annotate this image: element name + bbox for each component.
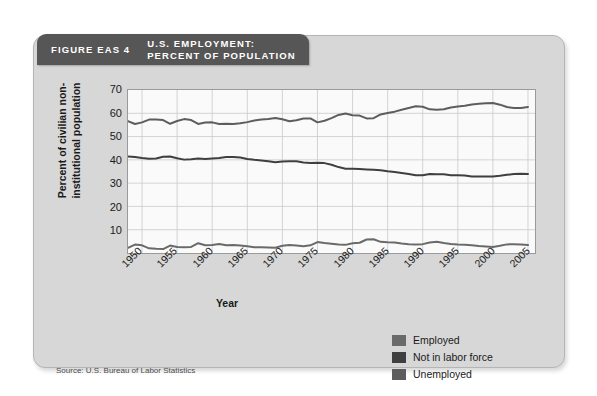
legend-item: Not in labor force (392, 349, 562, 365)
legend-label: Unemployed (413, 368, 472, 380)
legend-item: Employed (392, 332, 562, 348)
y-tick-label: 20 (98, 201, 122, 213)
x-axis-ticks: 1950195519601965197019751980198519901995… (127, 255, 536, 297)
y-tick-label: 60 (98, 107, 122, 119)
figure-title-line1: U.S. EMPLOYMENT: (147, 38, 255, 49)
x-axis-title: Year (127, 297, 327, 309)
series-lines (128, 103, 528, 249)
plot-svg (128, 90, 535, 253)
y-tick-label: 30 (98, 177, 122, 189)
legend-swatch (392, 352, 406, 363)
legend-label: Not in labor force (413, 351, 493, 363)
source-note: Source: U.S. Bureau of Labor Statistics (56, 366, 195, 375)
figure-card: FIGURE EAS 4 U.S. EMPLOYMENT: PERCENT OF… (33, 35, 565, 368)
y-axis-title: Percent of civilian non-institutional po… (56, 54, 83, 228)
y-axis-ticks: 70605040302010 (94, 89, 122, 254)
grid-lines (128, 90, 535, 253)
y-tick-label: 10 (98, 224, 122, 236)
plot-frame (127, 89, 536, 254)
chart-legend: EmployedNot in labor forceUnemployed (392, 332, 562, 383)
legend-swatch (392, 369, 406, 380)
y-tick-label: 50 (98, 130, 122, 142)
y-tick-label: 40 (98, 154, 122, 166)
figure-title: U.S. EMPLOYMENT: PERCENT OF POPULATION (147, 38, 296, 61)
chart-area: Percent of civilian non-institutional po… (34, 67, 564, 367)
legend-item: Unemployed (392, 366, 562, 382)
series-line (128, 239, 528, 249)
figure-title-line2: PERCENT OF POPULATION (147, 50, 296, 61)
y-tick-label: 70 (98, 83, 122, 95)
legend-swatch (392, 335, 406, 346)
legend-label: Employed (413, 334, 460, 346)
